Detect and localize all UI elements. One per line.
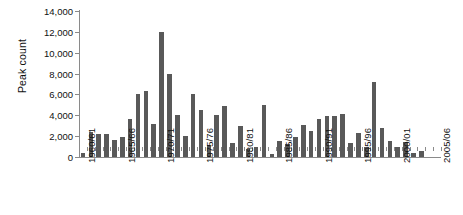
x-axis-tick-label: 1975/76	[204, 128, 215, 163]
y-axis-tick-label: 14,000	[44, 6, 73, 17]
x-axis-tick	[79, 147, 80, 151]
bar	[277, 141, 282, 157]
bar	[112, 140, 117, 157]
x-axis-tick-label: 1995/96	[362, 128, 373, 163]
x-axis-tick	[181, 147, 182, 151]
y-axis-tick	[75, 11, 79, 12]
bar	[317, 119, 322, 157]
bar	[191, 94, 196, 157]
x-axis-tick-label: 1990/91	[323, 128, 334, 163]
bar	[380, 128, 385, 157]
bar	[340, 114, 345, 157]
bar	[230, 143, 235, 157]
bar	[159, 32, 164, 157]
x-axis-tick	[354, 147, 355, 151]
x-axis-tick	[378, 147, 379, 151]
y-axis-tick-label: 6,000	[49, 89, 73, 100]
x-axis-tick	[236, 147, 237, 151]
y-axis-tick	[75, 32, 79, 33]
x-axis-tick	[110, 147, 111, 151]
y-axis-tick	[75, 94, 79, 95]
y-axis-tick	[75, 74, 79, 75]
bar	[309, 131, 314, 157]
x-axis-tick	[307, 147, 308, 151]
x-axis-tick	[150, 147, 151, 151]
y-axis-tick-label: 4,000	[49, 110, 73, 121]
bar	[120, 137, 125, 157]
bar	[348, 143, 353, 157]
bar	[81, 153, 86, 157]
x-axis-tick-label: 1970/71	[165, 128, 176, 163]
x-axis-tick	[142, 147, 143, 151]
x-axis-tick	[417, 147, 418, 151]
bar	[388, 141, 393, 157]
x-axis-tick	[197, 147, 198, 151]
x-axis-tick	[260, 147, 261, 151]
x-axis-tick	[394, 147, 395, 151]
y-axis-tick-label: 12,000	[44, 26, 73, 37]
x-axis-tick	[299, 147, 300, 151]
y-axis-tick	[75, 53, 79, 54]
bar	[183, 136, 188, 157]
x-axis-tick-label: 2000/01	[401, 128, 412, 163]
x-axis-tick	[347, 147, 348, 151]
bar	[419, 151, 424, 157]
x-axis-tick	[339, 147, 340, 151]
bar-chart: Peak count 02,0004,0006,0008,00010,00012…	[0, 0, 463, 215]
y-axis-tick	[75, 136, 79, 137]
bar	[96, 134, 101, 157]
bar	[144, 91, 149, 157]
x-axis-tick-label: 1980/81	[244, 128, 255, 163]
x-axis-tick	[189, 147, 190, 151]
y-axis-tick-label: 0	[68, 152, 73, 163]
bar	[301, 125, 306, 157]
bar	[214, 115, 219, 157]
y-axis-tick-label: 10,000	[44, 47, 73, 58]
bar	[262, 105, 267, 157]
x-axis-tick	[118, 147, 119, 151]
x-axis-tick-label: 1985/86	[283, 128, 294, 163]
bar	[238, 126, 243, 157]
x-axis-tick	[158, 147, 159, 151]
x-axis-tick	[386, 147, 387, 151]
bar	[151, 124, 156, 157]
x-axis-tick	[425, 147, 426, 151]
bar	[356, 133, 361, 158]
y-axis-tick-label: 2,000	[49, 131, 73, 142]
x-axis-tick	[221, 147, 222, 151]
x-axis-tick-label: 1965/66	[126, 128, 137, 163]
x-axis-tick	[276, 147, 277, 151]
x-axis-tick	[315, 147, 316, 151]
y-axis-tick-label: 8,000	[49, 68, 73, 79]
y-axis-tick	[75, 115, 79, 116]
x-axis-tick	[103, 147, 104, 151]
bar	[104, 134, 109, 157]
x-axis-tick	[268, 147, 269, 151]
x-axis-tick	[229, 147, 230, 151]
y-axis-tick	[75, 157, 79, 158]
x-axis-tick-label: 1960/61	[86, 128, 97, 163]
bar	[270, 154, 275, 157]
y-axis-title: Peak count	[16, 18, 28, 114]
bar	[222, 106, 227, 157]
bar	[395, 147, 400, 157]
x-axis-tick-label: 2005/06	[441, 128, 452, 163]
bar	[199, 110, 204, 157]
x-axis-tick	[433, 147, 434, 151]
